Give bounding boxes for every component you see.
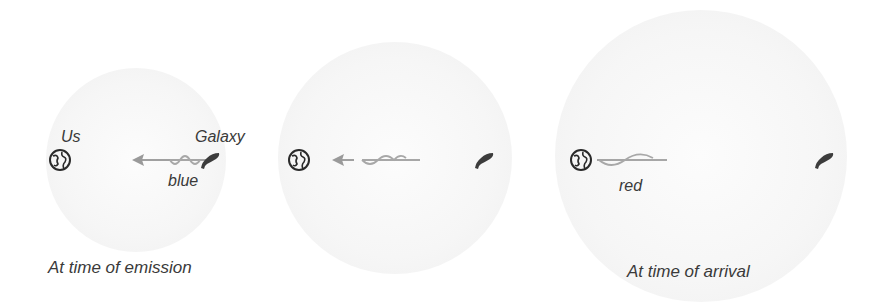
earth-icon [287,148,311,172]
observer-label: Us [61,128,81,146]
earth-icon [48,148,72,172]
light-wave-transit [332,148,422,172]
galaxy-icon [198,148,222,172]
galaxy-icon [812,148,836,172]
wave-label-red: red [619,177,642,195]
galaxy-icon [472,148,496,172]
caption-arrival: At time of arrival [627,262,750,282]
caption-emission: At time of emission [48,258,192,278]
source-label: Galaxy [195,128,245,146]
earth-icon [569,148,593,172]
light-wave-red [597,148,669,172]
wave-label-blue: blue [168,172,198,190]
